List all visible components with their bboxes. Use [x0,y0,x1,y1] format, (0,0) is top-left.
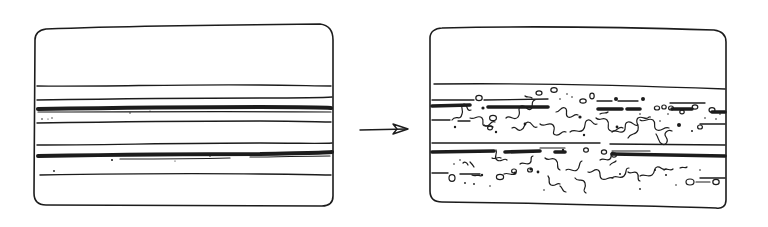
layer-line [432,120,725,124]
layer-line [40,174,331,175]
layer-line [434,84,725,89]
layer-line-thick [38,152,332,156]
before-panel [34,24,333,206]
transform-arrow-icon [360,124,408,134]
layer-line [37,97,332,100]
layer-line-thick [432,151,725,156]
layer-line [432,143,725,145]
after-panel [430,27,726,208]
before-panel-frame [34,24,333,206]
speckles [41,110,211,172]
layer-line [37,85,331,86]
layer-line-thin [432,99,705,103]
figure: Intact layered structure transforms into… [0,0,768,227]
layer-line-thick [38,107,331,109]
layer-line [37,121,331,123]
layer-line [37,143,332,145]
